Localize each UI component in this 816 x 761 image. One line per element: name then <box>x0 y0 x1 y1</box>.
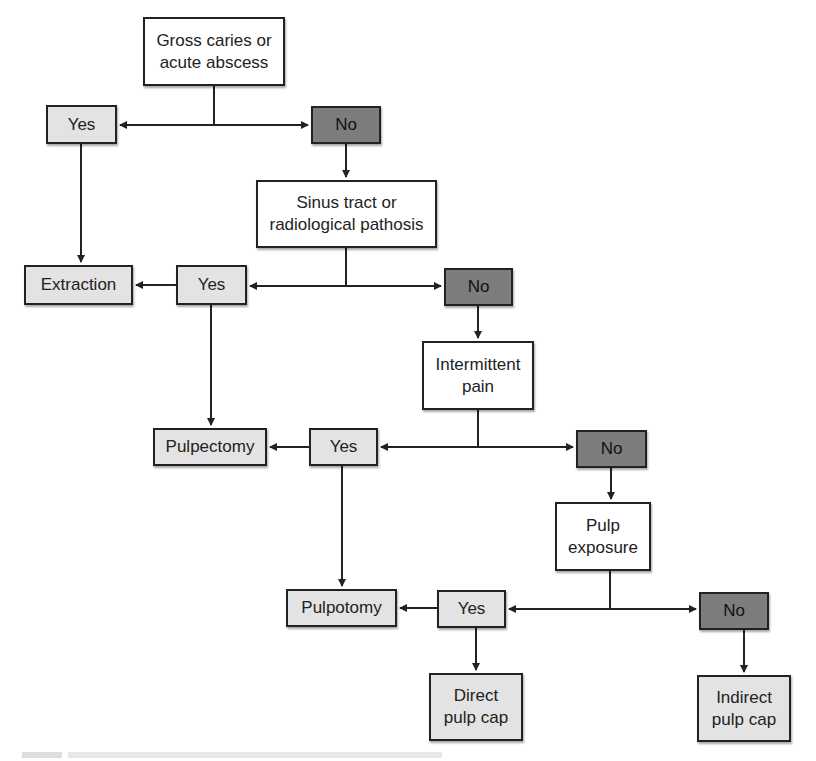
node-pulpotomy: Pulpotomy <box>286 589 397 627</box>
connector-lines <box>0 0 816 761</box>
node-direct-pulp-cap: Direct pulp cap <box>429 673 523 741</box>
node-pulp-exposure-yes: Yes <box>437 590 506 628</box>
node-intermittent-pain-question: Intermittent pain <box>422 341 534 410</box>
node-sinus-tract-no: No <box>444 268 513 306</box>
node-gross-caries-question: Gross caries or acute abscess <box>143 17 285 86</box>
node-pulpectomy: Pulpectomy <box>153 428 267 466</box>
node-intermittent-pain-yes: Yes <box>309 428 378 466</box>
node-indirect-pulp-cap: Indirect pulp cap <box>697 675 791 742</box>
node-sinus-tract-question: Sinus tract or radiological pathosis <box>256 180 437 248</box>
node-extraction: Extraction <box>24 265 133 305</box>
node-pulp-exposure-question: Pulp exposure <box>555 502 651 571</box>
node-gross-caries-no: No <box>311 106 381 144</box>
node-sinus-tract-yes: Yes <box>176 265 247 305</box>
cropped-figure-caption <box>22 752 442 758</box>
node-gross-caries-yes: Yes <box>46 105 117 144</box>
node-pulp-exposure-no: No <box>699 592 769 630</box>
node-intermittent-pain-no: No <box>576 430 647 468</box>
